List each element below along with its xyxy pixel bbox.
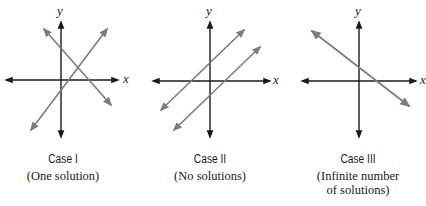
case-2-line-upper xyxy=(161,30,244,110)
case-3-graph xyxy=(302,22,416,137)
case-3-x-label: x xyxy=(420,72,426,88)
case-3-subtitle-line2: of solutions) xyxy=(293,183,423,197)
case-2-graph xyxy=(153,22,270,137)
case-1-x-label: x xyxy=(123,71,129,87)
case-3-y-label: y xyxy=(355,3,361,19)
case-3-title: Case III xyxy=(307,152,409,166)
case-1-graph xyxy=(6,22,118,137)
case-1-subtitle: (One solution) xyxy=(0,169,128,183)
case-2-subtitle: (No solutions) xyxy=(145,169,275,183)
case-3-subtitle-line1: (Infinite number xyxy=(293,169,423,183)
case-1-y-label: y xyxy=(57,3,63,19)
case-3-line-coincident xyxy=(312,31,409,106)
case-2-line-lower xyxy=(174,47,260,130)
case-2-title: Case II xyxy=(159,152,261,166)
case-1-title: Case I xyxy=(12,152,114,166)
case-2-x-label: x xyxy=(273,72,279,88)
case-2-y-label: y xyxy=(206,3,212,19)
